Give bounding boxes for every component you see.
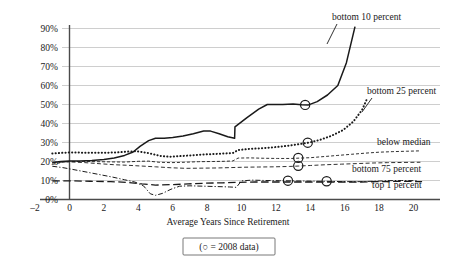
x-tick-label: 12 — [271, 203, 281, 213]
series-line-bottom-25-percent — [52, 99, 367, 157]
x-tick-label: 10 — [237, 203, 247, 213]
series-label-annotations: bottom 10 percentbottom 25 percentbelow … — [327, 12, 436, 190]
legend-note-box: (○ = 2008 data) — [183, 238, 275, 255]
y-tick-label: 80% — [41, 43, 59, 53]
series-annotation-bottom-75-percent: bottom 75 percent — [352, 164, 421, 174]
y-tick-label: 30% — [41, 138, 59, 148]
x-tick-label: 8 — [205, 203, 210, 213]
x-tick-label: 20 — [409, 203, 419, 213]
x-axis-title: Average Years Since Retirement — [167, 217, 290, 227]
chart-figure: 0%10%20%30%40%50%60%70%80%90% –202468101… — [0, 0, 457, 263]
series-annotation-bottom-10-percent: bottom 10 percent — [332, 12, 401, 22]
legend-note-label: (○ = 2008 data) — [199, 242, 258, 253]
leader-line-bottom-10-percent — [327, 24, 337, 44]
y-tick-label: 90% — [41, 24, 59, 34]
y-tick-label: 50% — [41, 100, 59, 110]
x-tick-label: –2 — [29, 203, 40, 213]
x-tick-label: 0 — [67, 203, 72, 213]
y-axis-tick-labels: 0%10%20%30%40%50%60%70%80%90% — [41, 24, 59, 205]
series-line-long-dash-baseline-series — [52, 181, 422, 185]
series-annotation-top-1-percent: top 1 percent — [372, 180, 422, 190]
y-tick-label: 60% — [41, 81, 59, 91]
x-tick-label: 14 — [306, 203, 316, 213]
x-axis-tick-labels: –202468101214161820 — [29, 203, 418, 213]
x-tick-label: 4 — [136, 203, 141, 213]
x-tick-label: 2 — [102, 203, 107, 213]
y-tick-label: 70% — [41, 62, 59, 72]
x-tick-label: 6 — [170, 203, 175, 213]
series-line-bottom-10-percent — [52, 27, 355, 163]
y-tick-label: 40% — [41, 119, 59, 129]
x-tick-label: 18 — [374, 203, 384, 213]
retirement-percentile-line-chart: 0%10%20%30%40%50%60%70%80%90% –202468101… — [0, 0, 457, 263]
gridlines-group — [62, 29, 440, 181]
series-annotation-bottom-25-percent: bottom 25 percent — [367, 86, 436, 96]
x-tick-label: 16 — [340, 203, 350, 213]
y-tick-label: 0% — [45, 195, 58, 205]
series-annotation-below-median: below median — [377, 137, 431, 147]
